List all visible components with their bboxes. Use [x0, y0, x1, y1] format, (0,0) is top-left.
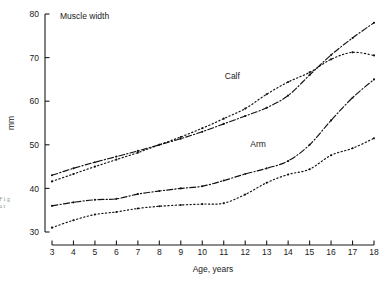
- x-axis-tick-label: 14: [283, 247, 293, 257]
- series-point: [94, 214, 96, 216]
- series-point: [330, 54, 332, 56]
- series-point: [158, 205, 160, 207]
- x-axis-tick-label: 13: [262, 247, 272, 257]
- series-point: [94, 199, 96, 201]
- series-point: [309, 168, 311, 170]
- series-point: [115, 156, 117, 158]
- series-point: [309, 74, 311, 76]
- x-axis-tick-label: 9: [178, 247, 183, 257]
- x-axis-tick-label: 15: [305, 247, 315, 257]
- series-point: [373, 78, 375, 80]
- series-line: [52, 23, 374, 176]
- series-point: [351, 51, 353, 53]
- x-axis-tick-label: 18: [369, 247, 379, 257]
- y-axis-tick-label: 70: [30, 53, 40, 63]
- series-point: [72, 201, 74, 203]
- series-annotation-calf: Calf: [225, 71, 241, 81]
- x-axis-tick-label: 16: [326, 247, 336, 257]
- series-point: [94, 166, 96, 168]
- series-point: [137, 207, 139, 209]
- series-point: [287, 81, 289, 83]
- series-point: [51, 205, 53, 207]
- series-point: [201, 127, 203, 129]
- series-point: [51, 180, 53, 182]
- series-point: [137, 152, 139, 154]
- series-line: [52, 79, 374, 205]
- series-point: [94, 161, 96, 163]
- series-point: [72, 167, 74, 169]
- series-point: [180, 204, 182, 206]
- series-point: [330, 119, 332, 121]
- series-point: [266, 182, 268, 184]
- series-point: [351, 97, 353, 99]
- series-point: [201, 131, 203, 133]
- series-point: [223, 202, 225, 204]
- series-point: [244, 115, 246, 117]
- muscle-width-chart: 3040506070803456789101112131415161718Mus…: [0, 0, 388, 281]
- series-point: [309, 144, 311, 146]
- series-point: [244, 173, 246, 175]
- series-point: [351, 37, 353, 39]
- x-axis-tick-label: 5: [93, 247, 98, 257]
- plot-title: Muscle width: [60, 11, 109, 21]
- series-point: [158, 144, 160, 146]
- series-point: [351, 147, 353, 149]
- x-axis-tick-label: 10: [198, 247, 208, 257]
- x-axis-tick-label: 17: [348, 247, 358, 257]
- series-point: [309, 71, 311, 73]
- series-point: [266, 167, 268, 169]
- series-point: [223, 123, 225, 125]
- series-point: [72, 219, 74, 221]
- series-point: [244, 108, 246, 110]
- y-axis-tick-label: 80: [30, 9, 40, 19]
- x-axis-title: Age, years: [193, 264, 234, 274]
- x-axis-tick-label: 12: [240, 247, 250, 257]
- y-axis-tick-label: 60: [30, 96, 40, 106]
- chart-canvas: 3040506070803456789101112131415161718Mus…: [0, 0, 388, 281]
- series-point: [180, 136, 182, 138]
- series-point: [330, 154, 332, 156]
- series-point: [223, 180, 225, 182]
- series-point: [158, 190, 160, 192]
- series-point: [201, 203, 203, 205]
- series-point: [201, 185, 203, 187]
- series-point: [115, 211, 117, 213]
- series-point: [266, 107, 268, 109]
- series-line: [52, 52, 374, 181]
- x-axis-tick-label: 4: [71, 247, 76, 257]
- x-axis-tick-label: 6: [114, 247, 119, 257]
- y-axis-tick-label: 40: [30, 184, 40, 194]
- series-point: [287, 160, 289, 162]
- x-axis-tick-label: 3: [50, 247, 55, 257]
- series-point: [287, 94, 289, 96]
- x-axis-tick-label: 8: [157, 247, 162, 257]
- page-margin-note: F i g u r: [0, 196, 11, 210]
- series-point: [72, 173, 74, 175]
- series-point: [115, 198, 117, 200]
- x-axis-tick-label: 7: [135, 247, 140, 257]
- x-axis-tick-label: 11: [219, 247, 228, 257]
- y-axis-title: mm: [6, 116, 16, 130]
- series-point: [180, 187, 182, 189]
- series-point: [51, 227, 53, 229]
- series-point: [373, 22, 375, 24]
- y-axis-tick-label: 50: [30, 140, 40, 150]
- series-point: [244, 193, 246, 195]
- series-point: [51, 174, 53, 176]
- series-point: [137, 193, 139, 195]
- series-point: [330, 58, 332, 60]
- series-point: [223, 118, 225, 120]
- series-point: [287, 173, 289, 175]
- series-point: [266, 93, 268, 95]
- series-point: [115, 159, 117, 161]
- series-point: [373, 137, 375, 139]
- y-axis-tick-label: 30: [30, 227, 40, 237]
- series-line: [52, 138, 374, 227]
- series-point: [373, 54, 375, 56]
- series-annotation-arm: Arm: [250, 139, 266, 149]
